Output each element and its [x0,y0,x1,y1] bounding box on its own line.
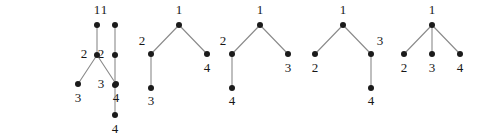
tree-5: 1234 [312,2,384,108]
tree-node-dot [94,52,100,58]
tree-node-label: 3 [377,33,384,48]
tree-edge [315,25,343,54]
tree-node-label: 4 [204,60,211,75]
tree-node-dot [229,51,235,57]
tree-node-dot [429,51,435,57]
tree-node-dot [148,85,154,91]
tree-node-label: 1 [101,2,108,17]
tree-node-dot [112,52,118,58]
tree-node-label: 3 [75,90,82,105]
tree-edge [179,25,207,54]
tree-node-dot [285,51,291,57]
tree-node-dot [340,22,346,28]
tree-6: 1234 [401,2,464,75]
tree-node-dot [229,85,235,91]
tree-4: 1234 [220,2,292,108]
tree-node-label: 2 [401,60,408,75]
tree-edge [404,25,432,54]
tree-node-label: 1 [176,2,183,17]
tree-node-label: 1 [340,2,347,17]
tree-node-dot [257,22,263,28]
tree-node-dot [429,22,435,28]
tree-node-label: 4 [229,93,236,108]
tree-node-label: 4 [113,90,120,105]
tree-edge [260,25,288,54]
tree-node-label: 2 [139,33,146,48]
tree-edge [232,25,260,54]
tree-edge [151,25,179,54]
tree-node-label: 2 [81,46,88,61]
tree-node-dot [94,22,100,28]
tree-node-dot [176,22,182,28]
tree-node-label: 1 [257,2,264,17]
tree-3: 1234 [139,2,211,108]
trees-canvas: 123412341234123412341234 [0,0,484,137]
tree-1: 1234 [98,2,119,136]
tree-node-dot [401,51,407,57]
tree-node-dot [112,112,118,118]
tree-node-label: 3 [429,60,436,75]
tree-node-label: 4 [368,93,375,108]
tree-node-label: 3 [98,76,105,91]
tree-node-dot [457,51,463,57]
tree-node-label: 3 [285,60,292,75]
tree-node-label: 1 [429,2,436,17]
tree-node-label: 1 [94,2,101,17]
tree-node-dot [368,85,374,91]
tree-node-dot [368,51,374,57]
tree-node-label: 3 [148,93,155,108]
tree-node-dot [148,51,154,57]
tree-node-label: 4 [112,121,119,136]
tree-node-label: 4 [457,60,464,75]
tree-edge [343,25,371,54]
tree-node-label: 2 [220,33,227,48]
tree-figure: 123412341234123412341234 [0,0,484,137]
tree-node-label: 2 [312,60,319,75]
tree-node-dot [312,51,318,57]
tree-node-dot [113,81,119,87]
tree-node-dot [112,22,118,28]
tree-edge [432,25,460,54]
tree-node-dot [75,81,81,87]
tree-node-dot [204,51,210,57]
